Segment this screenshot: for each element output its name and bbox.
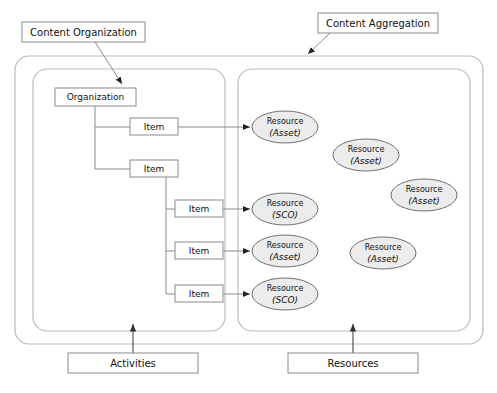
resource-label-3-kind: (Asset): [408, 196, 440, 206]
bottom-label-resources[interactable]: Resources: [288, 353, 418, 373]
resource-label-1-type: Resource: [267, 117, 304, 126]
resource-label-1-kind: (Asset): [269, 128, 301, 138]
item-label-4: Item: [189, 246, 210, 256]
item-node[interactable]: Item: [175, 200, 223, 217]
resource-node[interactable]: Resource (Asset): [391, 179, 457, 211]
resource-node[interactable]: Resource (SCO): [252, 193, 318, 225]
resource-label-5-kind: (Asset): [269, 252, 301, 262]
diagram-svg: Organization Item Item Item Item Item Re…: [0, 0, 497, 393]
resource-label-2-kind: (Asset): [350, 156, 382, 166]
diagram-canvas: Organization Item Item Item Item Item Re…: [0, 0, 497, 393]
content-organization-label: Content Organization: [30, 27, 137, 38]
organization-label: Organization: [67, 92, 125, 102]
callout-content-organization[interactable]: Content Organization: [22, 22, 145, 42]
item-node[interactable]: Item: [130, 160, 178, 177]
resource-label-3-type: Resource: [406, 185, 443, 194]
item-node[interactable]: Item: [175, 285, 223, 302]
item-label-1: Item: [144, 122, 165, 132]
resource-node[interactable]: Resource (Asset): [252, 235, 318, 267]
organization-node[interactable]: Organization: [55, 88, 136, 106]
resources-label: Resources: [327, 358, 378, 369]
bottom-label-activities[interactable]: Activities: [68, 353, 198, 373]
resource-node[interactable]: Resource (Asset): [333, 139, 399, 171]
resource-label-5-type: Resource: [267, 241, 304, 250]
resource-node[interactable]: Resource (Asset): [350, 237, 416, 269]
item-label-5: Item: [189, 289, 210, 299]
resource-label-4-kind: (SCO): [272, 210, 298, 220]
resource-node[interactable]: Resource (SCO): [252, 278, 318, 310]
item-node[interactable]: Item: [175, 242, 223, 259]
activities-label: Activities: [110, 358, 156, 369]
resource-label-7-type: Resource: [267, 284, 304, 293]
item-label-2: Item: [144, 164, 165, 174]
item-node[interactable]: Item: [130, 118, 178, 135]
resource-label-6-kind: (Asset): [367, 254, 399, 264]
resource-label-2-type: Resource: [348, 145, 385, 154]
item-label-3: Item: [189, 204, 210, 214]
resource-label-4-type: Resource: [267, 199, 304, 208]
callout-line-content-aggregation: [308, 33, 330, 54]
resource-label-7-kind: (SCO): [272, 295, 298, 305]
resource-label-6-type: Resource: [365, 243, 402, 252]
resource-node[interactable]: Resource (Asset): [252, 111, 318, 143]
content-aggregation-label: Content Aggregation: [326, 18, 430, 29]
callout-content-aggregation[interactable]: Content Aggregation: [318, 13, 438, 33]
